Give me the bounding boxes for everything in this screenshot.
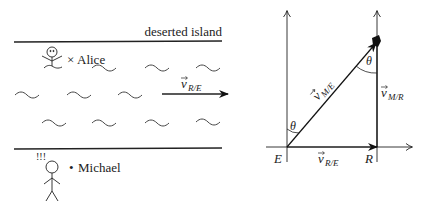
river-scene: deserted island × Alice (14, 24, 228, 201)
v-mr-label: v M/R (381, 85, 404, 102)
alice-figure-icon (42, 47, 62, 68)
island-label: deserted island (144, 24, 222, 39)
theta-bottom-label: θ (290, 119, 296, 133)
svg-text:R/E: R/E (324, 158, 339, 168)
svg-text:M/R: M/R (387, 92, 404, 102)
river-velocity-label: v R/E (181, 76, 202, 93)
v-re-label: v R/E (318, 151, 339, 168)
origin-label-e: E (273, 151, 282, 166)
water-waves (15, 65, 220, 126)
michael-label: Michael (78, 160, 121, 175)
near-bank-line (14, 148, 222, 149)
diagram-canvas: deserted island × Alice (0, 0, 424, 221)
far-bank-line (14, 41, 222, 42)
exclamation-marks: !!! (36, 151, 46, 162)
alice-label: Alice (77, 52, 105, 67)
michael-marker: • (69, 160, 74, 175)
svg-text:R/E: R/E (187, 83, 202, 93)
michael-figure-icon (44, 161, 60, 201)
velocity-vector-diagram: θ θ E R v R/E v M/R v M/E (266, 11, 412, 168)
theta-top-label: θ (366, 54, 372, 68)
v-me-vector (287, 43, 376, 147)
corner-label-r: R (364, 151, 373, 166)
v-me-label: v M/E (309, 76, 337, 105)
alice-marker: × (67, 52, 74, 67)
